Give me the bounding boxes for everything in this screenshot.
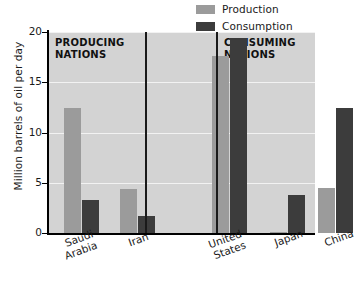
gridline [49,32,315,33]
legend-label-production: Production [222,4,279,15]
bar-iran-production [120,189,137,233]
plot-area: PRODUCING NATIONS CONSUMING NATIONS [49,32,315,233]
y-tick-label: 20 [6,25,42,37]
bar-china-consumption [336,108,353,233]
panel-separator-2 [216,32,218,233]
bar-united-states-consumption [230,38,247,233]
panel-separator-1 [145,32,147,233]
legend-swatch-consumption [196,22,215,31]
legend-label-consumption: Consumption [222,21,293,32]
y-tick-label: 5 [6,176,42,188]
y-tick-label: 10 [6,126,42,138]
legend-item-production: Production [196,2,320,17]
section-header-producing: PRODUCING NATIONS [55,37,124,60]
y-tick-label: 15 [6,75,42,87]
gridline [49,183,315,184]
x-axis-labels: Saudi ArabiaIranUnited StatesJapanChina [0,236,322,282]
gridline [49,82,315,83]
gridline [49,133,315,134]
bar-united-states-production [212,56,229,233]
chart-legend: Production Consumption [196,2,320,36]
legend-swatch-production [196,5,215,14]
bar-china-production [318,188,335,233]
bar-saudi-arabia-production [64,108,81,233]
